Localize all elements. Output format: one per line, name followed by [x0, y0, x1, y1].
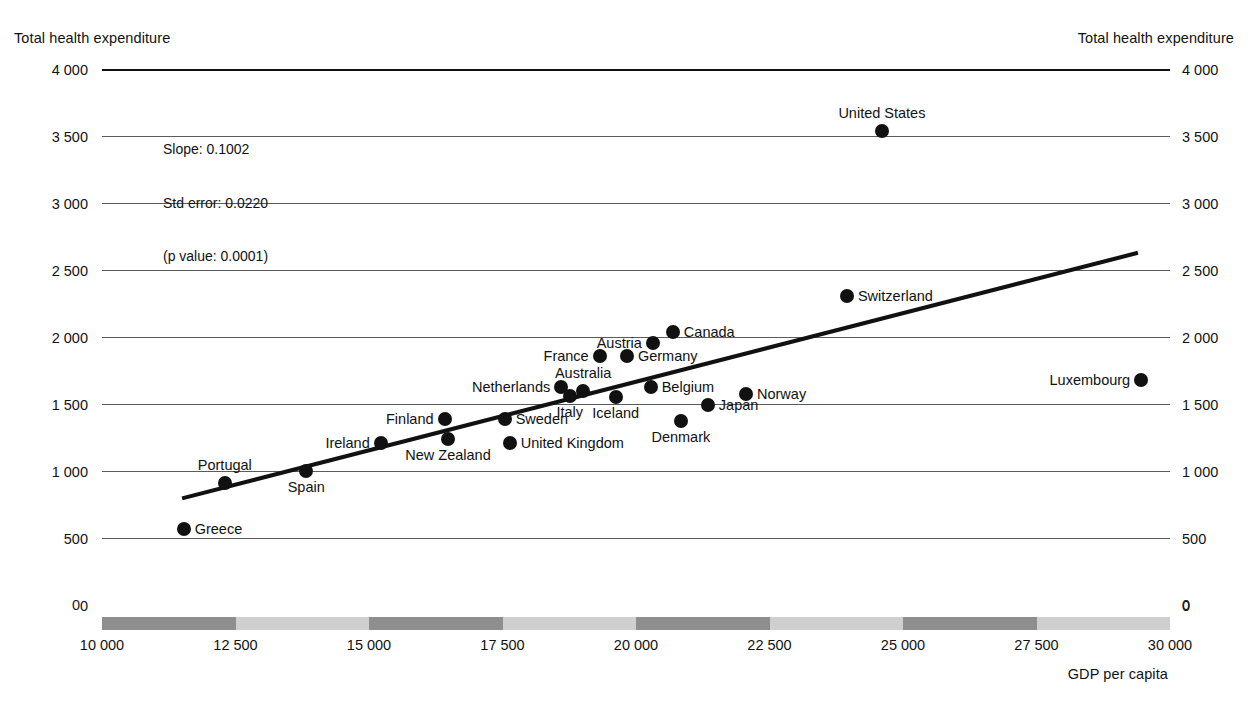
data-point-canada[interactable] [666, 325, 680, 339]
data-point-sweden[interactable] [498, 412, 512, 426]
x-axis-title: GDP per capita [1068, 666, 1168, 682]
data-label-belgium: Belgium [662, 379, 714, 394]
x-tick-12500: 12 500 [213, 637, 257, 653]
x-tick-25000: 25 000 [881, 637, 925, 653]
x-band-17500 [503, 617, 637, 630]
gridline-1000 [102, 471, 1170, 472]
y-tick-right-2000: 2 000 [1182, 331, 1218, 346]
x-band-20000 [636, 617, 770, 630]
data-label-austria: Austria [597, 336, 642, 351]
x-tick-17500: 17 500 [480, 637, 524, 653]
data-point-norway[interactable] [739, 387, 753, 401]
data-point-greece[interactable] [177, 522, 191, 536]
x-band-27500 [1037, 617, 1171, 630]
data-point-united-states[interactable] [875, 124, 889, 138]
data-point-switzerland[interactable] [840, 289, 854, 303]
data-point-portugal[interactable] [218, 476, 232, 490]
regression-annotation: Slope: 0.1002 Std error: 0.0220 (p value… [163, 105, 268, 302]
data-label-switzerland: Switzerland [858, 289, 933, 304]
x-band-22500 [770, 617, 904, 630]
data-label-greece: Greece [195, 521, 243, 536]
y-tick-right-1000: 1 000 [1182, 465, 1218, 480]
annotation-std-error: Std error: 0.0220 [163, 195, 268, 213]
x-band-10000 [102, 617, 236, 630]
data-label-germany: Germany [638, 349, 698, 364]
x-axis-zero-label-right: 0 [1182, 597, 1190, 613]
y-tick-left-2500: 2 500 [52, 264, 88, 279]
data-point-france[interactable] [593, 349, 607, 363]
data-point-finland[interactable] [438, 412, 452, 426]
y-tick-left-3000: 3 000 [52, 197, 88, 212]
y-tick-left-1000: 1 000 [52, 465, 88, 480]
data-point-italy[interactable] [563, 389, 577, 403]
data-point-germany[interactable] [620, 349, 634, 363]
data-point-japan[interactable] [701, 398, 715, 412]
y-tick-right-3000: 3 000 [1182, 197, 1218, 212]
y-tick-right-3500: 3 500 [1182, 130, 1218, 145]
y-axis-title-left: Total health expenditure [14, 30, 170, 46]
data-label-denmark: Denmark [651, 430, 710, 445]
y-tick-left-0: 0 [80, 599, 88, 614]
data-point-united-kingdom[interactable] [503, 436, 517, 450]
data-point-spain[interactable] [299, 464, 313, 478]
y-tick-left-500: 500 [64, 532, 88, 547]
annotation-slope: Slope: 0.1002 [163, 141, 268, 159]
y-axis-title-right: Total health expenditure [1078, 30, 1234, 46]
x-axis-zero-label-left: 0 [72, 597, 80, 613]
data-label-portugal: Portugal [198, 458, 252, 473]
gridline-4000 [102, 69, 1170, 71]
data-label-netherlands: Netherlands [472, 379, 550, 394]
data-point-austria[interactable] [646, 336, 660, 350]
data-point-iceland[interactable] [609, 390, 623, 404]
x-tick-20000: 20 000 [614, 637, 658, 653]
data-label-ireland: Ireland [325, 436, 369, 451]
data-point-ireland[interactable] [374, 436, 388, 450]
data-point-new-zealand[interactable] [441, 432, 455, 446]
data-label-australia: Australia [555, 366, 611, 381]
data-label-japan: Japan [719, 397, 759, 412]
y-tick-left-2000: 2 000 [52, 331, 88, 346]
data-point-belgium[interactable] [644, 380, 658, 394]
data-label-iceland: Iceland [592, 406, 639, 421]
y-tick-left-3500: 3 500 [52, 130, 88, 145]
x-tick-22500: 22 500 [747, 637, 791, 653]
scatter-chart: Total health expenditure Total health ex… [0, 0, 1248, 701]
x-tick-10000: 10 000 [80, 637, 124, 653]
regression-line-path [182, 253, 1138, 499]
x-band-15000 [369, 617, 503, 630]
data-point-luxembourg[interactable] [1134, 373, 1148, 387]
x-tick-30000: 30 000 [1148, 637, 1192, 653]
y-tick-right-2500: 2 500 [1182, 264, 1218, 279]
data-point-denmark[interactable] [674, 414, 688, 428]
annotation-p-value: (p value: 0.0001) [163, 248, 268, 266]
data-label-united-states: United States [838, 105, 925, 120]
data-label-united-kingdom: United Kingdom [521, 436, 624, 451]
y-tick-right-4000: 4 000 [1182, 63, 1218, 78]
data-point-australia[interactable] [576, 384, 590, 398]
y-tick-right-1500: 1 500 [1182, 398, 1218, 413]
data-label-france: France [544, 349, 589, 364]
x-axis-band-bar [102, 617, 1170, 630]
data-label-italy: Italy [556, 405, 583, 420]
x-tick-15000: 15 000 [347, 637, 391, 653]
y-tick-left-1500: 1 500 [52, 398, 88, 413]
x-tick-27500: 27 500 [1014, 637, 1058, 653]
x-band-25000 [903, 617, 1037, 630]
x-band-12500 [236, 617, 370, 630]
y-tick-right-500: 500 [1182, 532, 1206, 547]
data-label-new-zealand: New Zealand [405, 448, 490, 463]
y-tick-left-4000: 4 000 [52, 63, 88, 78]
gridline-500 [102, 538, 1170, 539]
data-label-norway: Norway [757, 387, 806, 402]
data-label-finland: Finland [386, 412, 434, 427]
data-label-canada: Canada [684, 324, 735, 339]
data-label-spain: Spain [288, 480, 325, 495]
data-label-luxembourg: Luxembourg [1050, 373, 1131, 388]
